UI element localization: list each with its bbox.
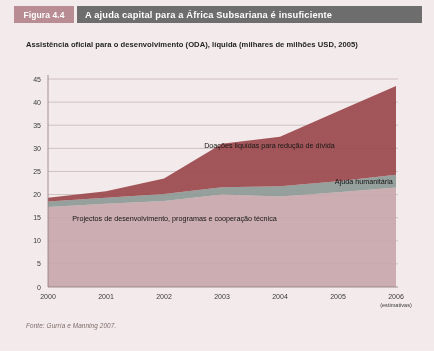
y-tick-label: 15	[33, 214, 41, 221]
y-tick-label: 40	[33, 99, 41, 106]
x-tick-label: 2005	[330, 293, 346, 300]
x-tick-label: 2003	[214, 293, 230, 300]
series-annotation: Doações líquidas para redução de dívida	[204, 141, 335, 150]
y-tick-label: 45	[33, 76, 41, 83]
y-tick-label: 35	[33, 122, 41, 129]
x-tick-label: 2000	[40, 293, 56, 300]
y-tick-label: 20	[33, 191, 41, 198]
y-tick-label: 0	[37, 284, 41, 291]
series-annotation: Ajuda humanitária	[335, 177, 393, 186]
x-tick-label: 2002	[156, 293, 172, 300]
y-tick-label: 25	[33, 168, 41, 175]
x-tick-label: 2004	[272, 293, 288, 300]
chart-plot-area: 051015202530354045 200020012002200320042…	[0, 0, 434, 351]
series-annotation: Projectos de desenvolvimento, programas …	[72, 214, 277, 223]
area-chart-svg: 051015202530354045 200020012002200320042…	[0, 0, 434, 351]
x-tick-sublabel: (estimativas)	[380, 302, 412, 308]
figure-source-note: Fonte: Gurría e Manning 2007.	[26, 322, 116, 329]
y-tick-label: 10	[33, 237, 41, 244]
chart-series-areas	[48, 86, 396, 287]
chart-y-tick-labels: 051015202530354045	[33, 76, 41, 291]
figure-card: Figura 4.4 A ajuda capital para a África…	[0, 0, 434, 351]
y-tick-label: 5	[37, 260, 41, 267]
x-tick-label: 2006	[388, 293, 404, 300]
y-tick-label: 30	[33, 145, 41, 152]
chart-x-tick-labels: 2000200120022003200420052006(estimativas…	[40, 293, 412, 308]
x-tick-label: 2001	[98, 293, 114, 300]
